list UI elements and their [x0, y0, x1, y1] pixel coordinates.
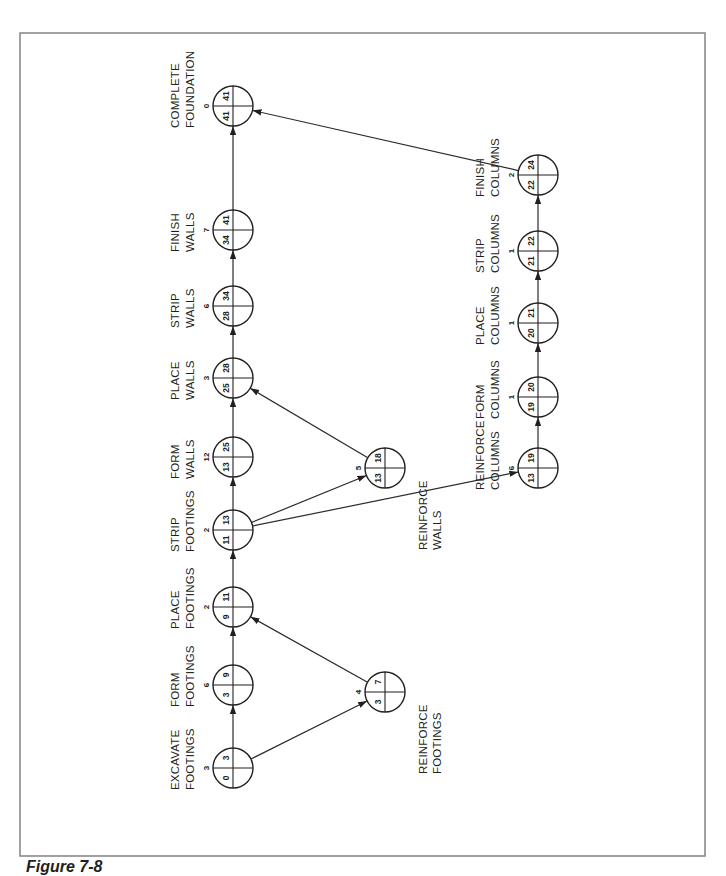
early-finish-value: 7: [373, 679, 383, 684]
edge-reinforce-walls-to-place-walls: [250, 388, 368, 458]
node-label-line2: FOOTINGS: [184, 645, 196, 707]
duration-value: 6: [507, 465, 516, 470]
node-label-line1: PLACE: [474, 306, 486, 345]
figure-caption: Figure 7-8: [26, 858, 102, 876]
edge-reinforce-footings-to-place-footings: [250, 617, 367, 682]
early-start-value: 28: [221, 311, 231, 321]
node-label-line2: COLUMNS: [489, 286, 501, 345]
duration-value: 1: [507, 248, 516, 253]
node-label-line1: STRIP: [169, 293, 181, 328]
duration-value: 2: [202, 527, 211, 532]
early-start-value: 9: [221, 614, 231, 619]
node-label-line1: REINFORCE: [417, 704, 429, 774]
nodes-layer: 033EXCAVATEFOOTINGS396FORMFOOTINGS9112PL…: [169, 51, 558, 790]
early-finish-value: 18: [373, 453, 383, 463]
node-reinforce-columns: 13196REINFORCECOLUMNS: [474, 420, 558, 490]
node-label-line2: WALLS: [184, 212, 196, 252]
node-label-line2: WALLS: [184, 288, 196, 328]
node-label-line1: PLACE: [169, 361, 181, 400]
node-label-line2: WALLS: [184, 439, 196, 479]
node-label-line2: FOOTINGS: [184, 490, 196, 552]
node-strip-walls: 28346STRIPWALLS: [169, 286, 253, 328]
node-label-line2: WALLS: [431, 510, 443, 550]
early-start-value: 34: [221, 235, 231, 245]
node-finish-walls: 34417FINISHWALLS: [169, 210, 253, 252]
node-label-line2: COLUMNS: [489, 360, 501, 419]
node-label-line2: COLUMNS: [489, 214, 501, 273]
duration-value: 4: [354, 689, 363, 694]
early-finish-value: 22: [526, 236, 536, 246]
duration-value: 5: [354, 465, 363, 470]
early-finish-value: 41: [221, 91, 231, 101]
early-start-value: 22: [526, 180, 536, 190]
early-finish-value: 13: [221, 515, 231, 525]
node-label-line1: FINISH: [474, 158, 486, 197]
node-strip-footings: 11132STRIPFOOTINGS: [169, 490, 253, 552]
node-strip-columns: 21221STRIPCOLUMNS: [474, 214, 558, 273]
early-start-value: 13: [221, 462, 231, 472]
early-start-value: 0: [221, 775, 231, 780]
node-label-line1: COMPLETE: [169, 63, 181, 128]
early-start-value: 11: [221, 535, 231, 544]
early-finish-value: 41: [221, 215, 231, 225]
node-form-walls: 132512FORMWALLS: [169, 437, 253, 479]
node-place-walls: 25283PLACEWALLS: [169, 358, 253, 400]
duration-value: 1: [507, 320, 516, 325]
duration-value: 3: [202, 375, 211, 380]
node-form-footings: 396FORMFOOTINGS: [169, 645, 253, 707]
node-label-line1: STRIP: [474, 238, 486, 273]
early-start-value: 13: [373, 473, 383, 483]
early-finish-value: 25: [221, 442, 231, 452]
early-finish-value: 19: [526, 453, 536, 463]
node-label-line2: WALLS: [184, 360, 196, 400]
node-finish-columns: 22242FINISHCOLUMNS: [474, 138, 558, 197]
early-finish-value: 21: [526, 308, 536, 318]
early-finish-value: 24: [526, 160, 536, 170]
early-finish-value: 20: [526, 382, 536, 392]
edge-excavate-footings-to-reinforce-footings: [251, 701, 367, 759]
early-start-value: 13: [526, 473, 536, 483]
duration-value: 2: [507, 172, 516, 177]
node-label-line2: FOOTINGS: [184, 728, 196, 790]
node-label-line1: STRIP: [169, 517, 181, 552]
node-complete-foundation: 41410COMPLETEFOUNDATION: [169, 51, 253, 128]
early-start-value: 3: [373, 699, 383, 704]
duration-value: 3: [202, 765, 211, 770]
node-label-line2: FOOTINGS: [431, 712, 443, 774]
duration-value: 1: [507, 394, 516, 399]
node-reinforce-footings: 374REINFORCEFOOTINGS: [354, 672, 444, 774]
duration-value: 6: [202, 682, 211, 687]
node-place-footings: 9112PLACEFOOTINGS: [169, 567, 253, 629]
node-label-line1: FORM: [169, 444, 181, 479]
node-label-line1: REINFORCE: [474, 420, 486, 490]
node-reinforce-walls: 13185REINFORCEWALLS: [354, 448, 444, 550]
early-finish-value: 3: [221, 755, 231, 760]
node-excavate-footings: 033EXCAVATEFOOTINGS: [169, 728, 253, 790]
duration-value: 0: [202, 103, 211, 108]
early-start-value: 3: [221, 692, 231, 697]
early-finish-value: 9: [221, 672, 231, 677]
duration-value: 6: [202, 303, 211, 308]
node-label-line1: FINISH: [169, 213, 181, 252]
node-place-columns: 20211PLACECOLUMNS: [474, 286, 558, 345]
duration-value: 12: [202, 452, 211, 461]
early-start-value: 41: [221, 111, 231, 121]
node-label-line2: COLUMNS: [489, 431, 501, 490]
edge-strip-footings-to-reinforce-walls: [252, 476, 367, 523]
node-label-line2: FOOTINGS: [184, 567, 196, 629]
figure-frame: [20, 33, 705, 856]
early-start-value: 20: [526, 328, 536, 338]
node-label-line1: PLACE: [169, 590, 181, 629]
node-label-line2: COLUMNS: [489, 138, 501, 197]
duration-value: 2: [202, 604, 211, 609]
early-finish-value: 11: [221, 592, 231, 601]
node-label-line1: REINFORCE: [417, 480, 429, 550]
node-label-line2: FOUNDATION: [184, 51, 196, 128]
node-label-line1: FORM: [169, 672, 181, 707]
node-label-line1: EXCAVATE: [169, 729, 181, 790]
duration-value: 7: [202, 227, 211, 232]
node-form-columns: 19201FORMCOLUMNS: [474, 360, 558, 419]
early-start-value: 19: [526, 402, 536, 412]
node-label-line1: FORM: [474, 384, 486, 419]
early-finish-value: 28: [221, 363, 231, 373]
